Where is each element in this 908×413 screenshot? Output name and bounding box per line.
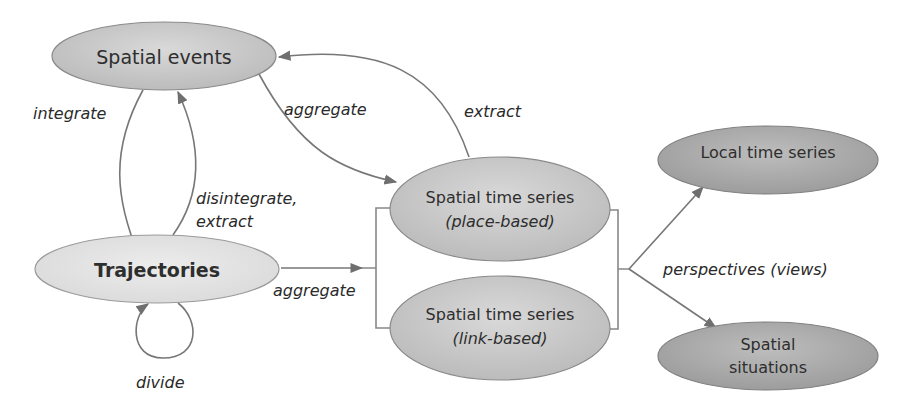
label-divide: divide xyxy=(136,373,185,392)
edge-perspective-local xyxy=(629,187,703,269)
node-trajectories[interactable]: Trajectories xyxy=(35,235,279,303)
node-sts-place-line1: Spatial time series xyxy=(426,188,575,207)
node-local-time-series[interactable]: Local time series xyxy=(658,126,878,194)
bracket-left xyxy=(362,208,392,328)
label-integrate: integrate xyxy=(33,104,107,123)
label-extract: extract xyxy=(464,102,522,121)
node-sts-place-line2: (place-based) xyxy=(445,212,555,231)
node-local-time-series-label: Local time series xyxy=(700,143,835,162)
node-spatial-events[interactable]: Spatial events xyxy=(52,22,276,90)
label-aggregate-events: aggregate xyxy=(284,100,367,119)
node-sts-link-line2: (link-based) xyxy=(453,329,548,348)
node-sts-link-line1: Spatial time series xyxy=(426,305,575,324)
node-spatial-situations-line2: situations xyxy=(729,358,807,377)
node-sts-link-based[interactable]: Spatial time series (link-based) xyxy=(390,276,610,380)
label-perspectives: perspectives (views) xyxy=(662,260,828,279)
node-trajectories-label: Trajectories xyxy=(94,259,220,281)
edge-disintegrate-extract xyxy=(173,92,196,235)
bracket-right xyxy=(610,210,629,329)
node-spatial-situations-line1: Spatial xyxy=(740,335,795,354)
edge-divide-loop xyxy=(136,303,193,358)
node-spatial-situations[interactable]: Spatial situations xyxy=(658,322,878,390)
label-disintegrate-extract: extract xyxy=(196,212,254,231)
label-aggregate-trajectories: aggregate xyxy=(273,281,356,300)
diagram-canvas: Spatial events Trajectories Spatial time… xyxy=(0,0,908,413)
node-sts-place-based[interactable]: Spatial time series (place-based) xyxy=(390,157,610,261)
label-disintegrate: disintegrate, xyxy=(196,189,297,208)
edge-aggregate-events xyxy=(259,74,396,182)
node-spatial-events-label: Spatial events xyxy=(96,46,231,68)
edge-integrate xyxy=(120,90,143,258)
